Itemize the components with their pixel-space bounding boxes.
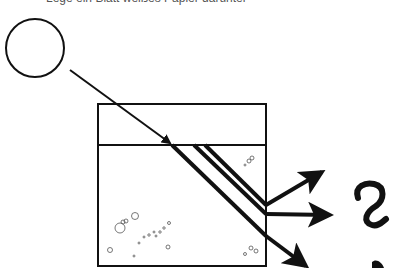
water-tank [98,104,266,266]
exiting-ray-arrows [266,172,330,266]
incoming-ray-arrow [70,70,170,143]
refracted-rays [172,145,266,236]
light-source-icon [6,19,64,77]
question-mark-dot [372,260,384,268]
question-mark-icon [357,184,386,226]
refraction-diagram [0,0,404,268]
